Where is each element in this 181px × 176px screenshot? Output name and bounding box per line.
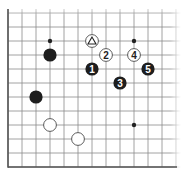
white-stone (86, 35, 99, 48)
move-number-label: 1 (89, 64, 95, 75)
board-grid (8, 9, 181, 167)
white-stone: 4 (128, 49, 141, 62)
black-stone: 5 (141, 62, 154, 75)
right-fade (170, 0, 181, 176)
black-stone: 1 (85, 62, 98, 75)
white-stone-body (72, 133, 85, 146)
black-stone (29, 90, 42, 103)
board-edges (8, 9, 177, 168)
black-stone-body (43, 48, 56, 61)
star-point (132, 123, 136, 127)
white-stone-body (44, 119, 57, 132)
move-number-label: 2 (103, 50, 109, 61)
star-point (132, 39, 136, 43)
move-number-label: 3 (117, 78, 123, 89)
move-number-label: 4 (131, 50, 137, 61)
go-board-diagram: 12345 (0, 0, 181, 176)
move-number-label: 5 (145, 64, 151, 75)
white-stone (72, 133, 85, 146)
star-point (48, 39, 52, 43)
top-fade (0, 0, 181, 16)
white-stone: 2 (100, 49, 113, 62)
black-stone-body (29, 90, 42, 103)
white-stone (44, 119, 57, 132)
black-stone (43, 48, 56, 61)
black-stone: 3 (113, 76, 126, 89)
